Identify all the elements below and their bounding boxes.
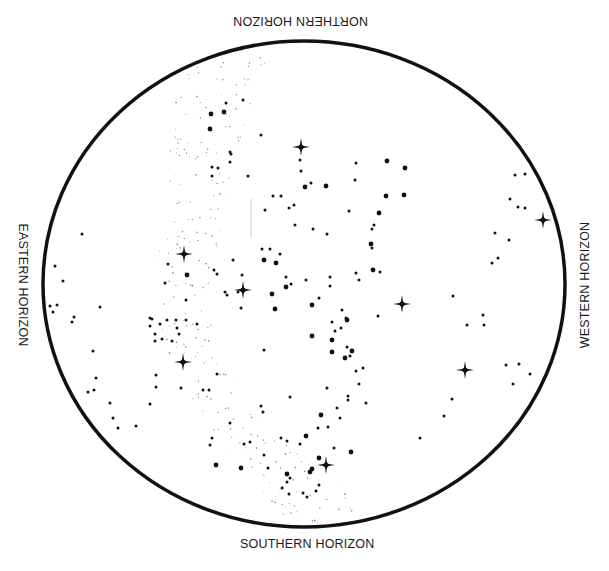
northern-horizon-label: NORTHERN HORIZON [233, 14, 368, 28]
star [155, 374, 158, 377]
star [261, 248, 264, 251]
medium-stars [185, 110, 408, 477]
star [285, 276, 288, 279]
star [319, 413, 324, 418]
bright-star-icon [393, 295, 411, 313]
star [327, 426, 330, 429]
star [512, 383, 515, 386]
bright-star-icon [292, 138, 310, 156]
star [242, 99, 245, 102]
star [93, 389, 96, 392]
star [336, 407, 339, 410]
star [112, 417, 115, 420]
star [154, 333, 157, 336]
bright-star-icon [456, 361, 474, 379]
star [385, 159, 390, 164]
star [154, 340, 157, 343]
bright-star-icon [234, 281, 252, 299]
star [373, 224, 376, 227]
star [491, 262, 494, 265]
star [222, 110, 227, 115]
star [269, 248, 272, 251]
star [483, 324, 486, 327]
star-chart [0, 0, 609, 571]
star [524, 207, 527, 210]
star [225, 102, 228, 105]
star [289, 396, 292, 399]
star [365, 402, 368, 405]
star [349, 450, 354, 455]
bright-star-icon [534, 211, 552, 229]
star [355, 272, 358, 275]
star [280, 437, 283, 440]
star [331, 321, 334, 324]
star [299, 159, 302, 162]
star [317, 456, 322, 461]
star [354, 179, 357, 182]
star [333, 447, 336, 450]
star [358, 279, 361, 282]
star [279, 253, 282, 256]
star [226, 294, 229, 297]
star [355, 162, 358, 165]
star [343, 356, 348, 361]
star [482, 314, 485, 317]
star [334, 330, 337, 333]
star [217, 167, 220, 170]
star [300, 170, 303, 173]
eastern-horizon-label: EASTERN HORIZON [16, 220, 30, 350]
star [317, 427, 320, 430]
star [209, 444, 212, 447]
star [518, 363, 521, 366]
star [237, 291, 240, 294]
star [180, 387, 183, 390]
star [402, 193, 407, 198]
star [99, 306, 102, 309]
star [419, 437, 422, 440]
star [175, 319, 178, 322]
star [384, 194, 389, 199]
star [229, 161, 232, 164]
star [232, 259, 235, 262]
star [347, 395, 350, 398]
faint-stars [49, 99, 532, 499]
star [286, 481, 289, 484]
star [290, 283, 293, 286]
star [211, 175, 214, 178]
star [262, 411, 265, 414]
star [326, 233, 329, 236]
star [310, 303, 315, 308]
star [509, 198, 512, 201]
star [310, 334, 315, 339]
star [151, 318, 154, 321]
star [178, 333, 181, 336]
star [216, 373, 219, 376]
star [54, 265, 57, 268]
star [247, 175, 250, 178]
star [294, 224, 297, 227]
star [293, 204, 296, 207]
star [164, 282, 167, 285]
star [302, 492, 305, 495]
milky-way-band [149, 40, 379, 530]
star [303, 185, 308, 190]
horizon-circle [43, 41, 565, 527]
star [149, 325, 152, 328]
star [341, 309, 344, 312]
star [262, 258, 267, 263]
star [109, 402, 112, 405]
star [281, 487, 284, 490]
star [312, 228, 315, 231]
star [224, 291, 227, 294]
star [208, 389, 211, 392]
star [239, 466, 244, 471]
star [211, 437, 214, 440]
star [315, 490, 318, 493]
star [355, 370, 358, 373]
star [270, 292, 275, 297]
southern-horizon-label: SOUTHERN HORIZON [240, 537, 374, 551]
star [346, 346, 349, 349]
star [358, 383, 361, 386]
star [310, 182, 313, 185]
star [81, 233, 84, 236]
